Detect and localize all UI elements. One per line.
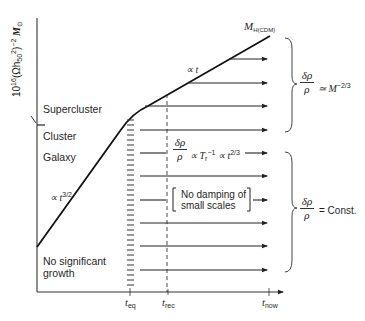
label-supercluster: Supercluster	[43, 103, 102, 115]
equality-hatching	[127, 120, 134, 285]
tick-t-now: tnow	[262, 297, 278, 312]
label-early-slope: ∝ t3/2	[50, 189, 72, 204]
lower-rhs: = Const.	[319, 205, 357, 217]
label-no-significant: No significant	[43, 255, 106, 267]
upper-fraction: δρρ	[300, 70, 314, 95]
tick-t-rec: trec	[162, 297, 175, 312]
label-late-slope: ∝ t	[186, 64, 198, 76]
label-galaxy: Galaxy	[43, 151, 76, 163]
label-growth: growth	[43, 267, 75, 279]
damping-note-line2: small scales	[181, 200, 235, 212]
upper-rhs: ≃ M−2/3	[318, 80, 351, 95]
lower-brace	[285, 152, 297, 272]
label-cluster: Cluster	[43, 130, 76, 142]
growth-rhs: ∝ Tr−1 ∝ t2/3	[190, 147, 240, 165]
growth-fraction: δρρ	[173, 137, 187, 162]
tick-t-eq: teq	[125, 297, 136, 312]
y-axis-label: 1016(Ωh502)−2 M⊙	[10, 9, 24, 109]
lower-fraction: δρρ	[300, 196, 314, 221]
label-horizon-mass: MH(CDM)	[244, 20, 275, 36]
upper-brace	[285, 38, 297, 132]
